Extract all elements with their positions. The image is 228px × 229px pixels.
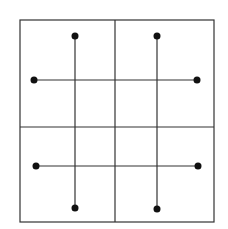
endpoint-dot-v-left-end [72,205,79,212]
segments-group [31,33,202,213]
endpoint-dot-h-bottom-start [33,163,40,170]
outer-box [20,20,214,222]
grid-diagram [0,0,228,229]
endpoint-dot-v-left-start [72,33,79,40]
endpoint-dot-v-right-start [154,33,161,40]
endpoint-dot-h-top-start [31,77,38,84]
endpoint-dot-v-right-end [154,206,161,213]
endpoint-dot-h-top-end [194,77,201,84]
endpoint-dot-h-bottom-end [195,163,202,170]
